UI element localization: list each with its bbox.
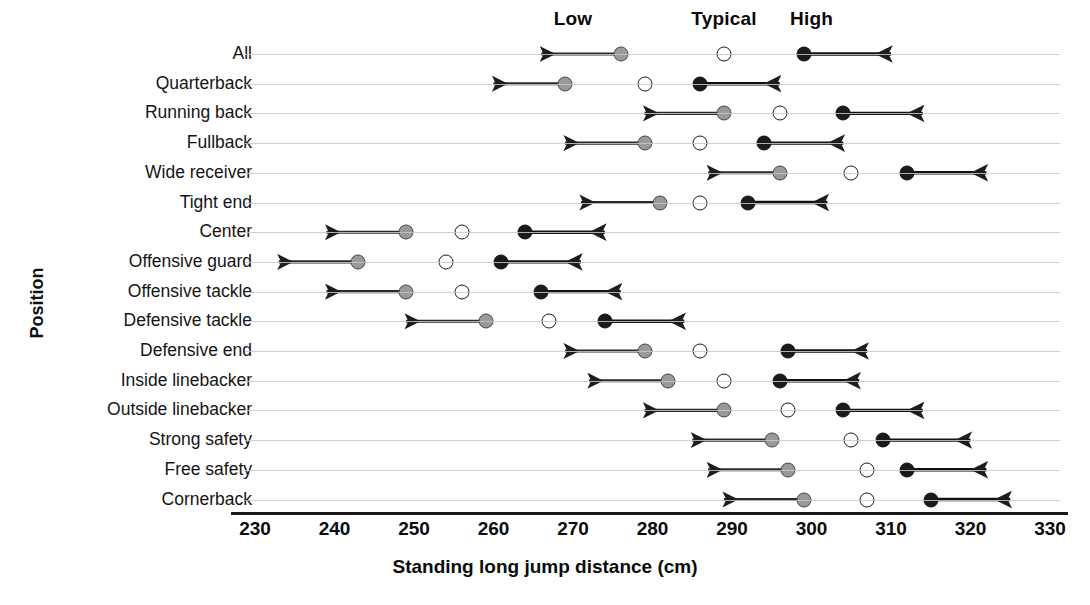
gridline bbox=[245, 351, 1060, 352]
x-tick-230: 230 bbox=[239, 518, 271, 540]
gridline bbox=[245, 173, 1060, 174]
x-axis-title: Standing long jump distance (cm) bbox=[0, 556, 1090, 578]
gridline bbox=[245, 262, 1060, 263]
category-label-strong-safety: Strong safety bbox=[149, 431, 252, 449]
category-label-cornerback: Cornerback bbox=[162, 491, 252, 509]
gridline bbox=[245, 470, 1060, 471]
gridline bbox=[245, 410, 1060, 411]
x-axis-line bbox=[231, 512, 1068, 515]
x-tick-300: 300 bbox=[796, 518, 828, 540]
gridline bbox=[245, 84, 1060, 85]
category-label-quarterback: Quarterback bbox=[156, 75, 252, 93]
gridline bbox=[245, 440, 1060, 441]
series-header-low: Low bbox=[554, 8, 593, 30]
x-tick-240: 240 bbox=[319, 518, 351, 540]
series-header-typical: Typical bbox=[691, 8, 756, 30]
category-label-defensive-end: Defensive end bbox=[140, 342, 252, 360]
category-label-offensive-guard: Offensive guard bbox=[129, 253, 252, 271]
category-label-running-back: Running back bbox=[145, 105, 252, 123]
category-label-tight-end: Tight end bbox=[180, 194, 252, 212]
series-header-high: High bbox=[790, 8, 833, 30]
gridline bbox=[245, 232, 1060, 233]
x-tick-260: 260 bbox=[478, 518, 510, 540]
category-label-inside-linebacker: Inside linebacker bbox=[121, 372, 252, 390]
arrow-layer bbox=[258, 0, 1058, 520]
x-tick-280: 280 bbox=[637, 518, 669, 540]
plot-area bbox=[258, 0, 1058, 520]
category-label-free-safety: Free safety bbox=[164, 461, 252, 479]
gridline bbox=[245, 500, 1060, 501]
gridline bbox=[245, 203, 1060, 204]
gridline bbox=[245, 321, 1060, 322]
gridline bbox=[245, 143, 1060, 144]
x-tick-250: 250 bbox=[398, 518, 430, 540]
gridline bbox=[245, 113, 1060, 114]
x-tick-290: 290 bbox=[716, 518, 748, 540]
x-tick-330: 330 bbox=[1034, 518, 1066, 540]
category-label-offensive-tackle: Offensive tackle bbox=[128, 283, 252, 301]
category-label-defensive-tackle: Defensive tackle bbox=[124, 313, 252, 331]
gridline bbox=[245, 292, 1060, 293]
category-label-fullback: Fullback bbox=[187, 134, 252, 152]
gridline bbox=[245, 54, 1060, 55]
x-tick-320: 320 bbox=[955, 518, 987, 540]
chart-container: Position AllQuarterbackRunning backFullb… bbox=[0, 0, 1090, 605]
x-tick-270: 270 bbox=[557, 518, 589, 540]
y-axis-category-labels: AllQuarterbackRunning backFullbackWide r… bbox=[0, 0, 252, 520]
gridline bbox=[245, 381, 1060, 382]
x-tick-310: 310 bbox=[875, 518, 907, 540]
category-label-wide-receiver: Wide receiver bbox=[145, 164, 252, 182]
category-label-outside-linebacker: Outside linebacker bbox=[107, 402, 252, 420]
